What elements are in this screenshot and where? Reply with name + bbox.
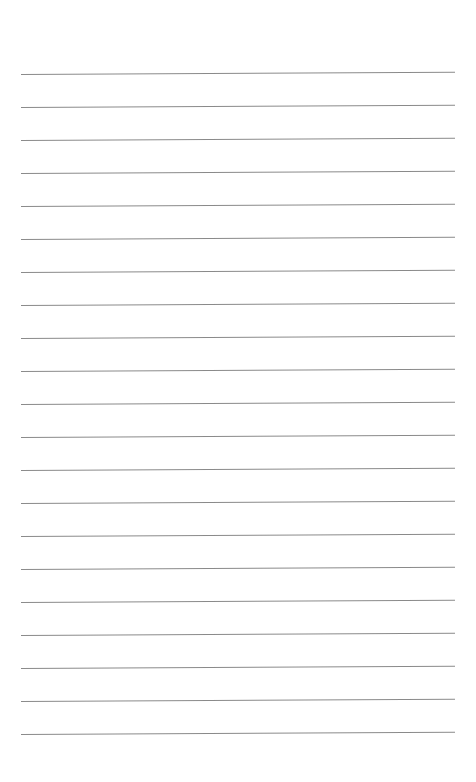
ruled-line [21, 72, 455, 75]
ruled-line [21, 468, 455, 471]
ruled-line [21, 336, 455, 339]
ruled-line [21, 435, 455, 438]
ruled-line [21, 600, 455, 603]
ruled-line [21, 732, 455, 735]
ruled-line [21, 204, 455, 207]
ruled-page [0, 0, 476, 782]
ruled-line [21, 369, 455, 372]
ruled-line [21, 567, 455, 570]
ruled-line [21, 138, 455, 141]
ruled-line [21, 237, 455, 240]
ruled-line [21, 633, 455, 636]
ruled-line [21, 501, 455, 504]
ruled-line [21, 270, 455, 273]
ruled-line [21, 105, 455, 108]
ruled-line [21, 303, 455, 306]
ruled-line [21, 666, 455, 669]
ruled-line [21, 534, 455, 537]
ruled-line [21, 699, 455, 702]
ruled-line [21, 402, 455, 405]
ruled-line [21, 171, 455, 174]
